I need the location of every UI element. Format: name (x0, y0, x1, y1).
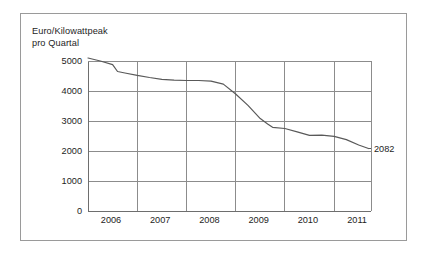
y-axis-tick-label: 2000 (38, 146, 82, 156)
plot-svg (88, 61, 371, 211)
y-axis-tick-label: 3000 (38, 116, 82, 126)
data-series-group (88, 58, 371, 149)
y-axis-title: Euro/Kilowattpeak pro Quartal (32, 26, 108, 49)
x-axis-tick-label: 2011 (330, 215, 384, 225)
x-axis-tick-label: 2007 (133, 215, 187, 225)
y-axis-tick-label: 5000 (38, 56, 82, 66)
x-axis-tick-label: 2009 (232, 215, 286, 225)
chart-figure: Euro/Kilowattpeak pro Quartal 0100020003… (0, 0, 426, 255)
plot-area (88, 61, 371, 211)
x-axis-tick-label: 2006 (84, 215, 138, 225)
y-axis-tick-label: 4000 (38, 86, 82, 96)
x-axis-tick-label: 2010 (281, 215, 335, 225)
data-line (88, 58, 369, 149)
x-axis-tick-label: 2008 (182, 215, 236, 225)
end-value-label: 2082 (374, 144, 394, 154)
y-axis-tick-label: 1000 (38, 176, 82, 186)
y-axis-tick-label: 0 (38, 206, 82, 216)
